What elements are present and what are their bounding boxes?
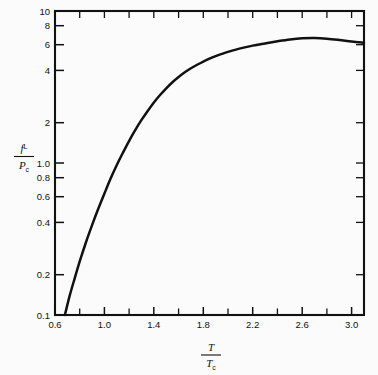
- y-tick-label-0.2: 0.2: [37, 269, 50, 280]
- y-tick-label-6: 6: [45, 39, 50, 50]
- y-tick-label-0.4: 0.4: [37, 217, 50, 228]
- x-tick-label-0.6: 0.6: [48, 319, 61, 330]
- x-tick-label-2.6: 2.6: [296, 319, 309, 330]
- y-tick-label-2: 2: [45, 117, 50, 128]
- x-tick-label-1.8: 1.8: [197, 319, 210, 330]
- figure-container: 10 8 6 4 2 1.0 0.8 0.6 0.4 0.2 0.1: [0, 0, 378, 375]
- y-tick-label-10: 10: [39, 6, 50, 17]
- y-tick-label-1.0: 1.0: [37, 158, 50, 169]
- chart-svg: 10 8 6 4 2 1.0 0.8 0.6 0.4 0.2 0.1: [0, 0, 378, 375]
- x-tick-label-1.4: 1.4: [147, 319, 160, 330]
- x-tick-label-3.0: 3.0: [345, 319, 358, 330]
- y-tick-label-0.8: 0.8: [37, 172, 50, 183]
- y-tick-label-4: 4: [45, 65, 50, 76]
- y-tick-label-8: 8: [45, 20, 50, 31]
- x-tick-label-2.2: 2.2: [246, 319, 259, 330]
- x-tick-label-1.0: 1.0: [98, 319, 111, 330]
- y-tick-label-0.6: 0.6: [37, 191, 50, 202]
- x-axis-title-numerator: T: [208, 341, 215, 353]
